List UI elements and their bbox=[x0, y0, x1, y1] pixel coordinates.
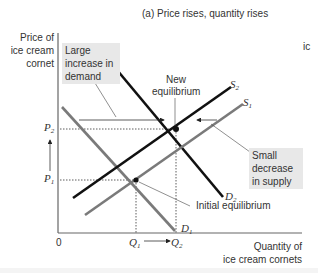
s2-label: S2 bbox=[230, 78, 239, 92]
new-equilibrium-point bbox=[173, 126, 179, 132]
chart-canvas bbox=[0, 0, 318, 273]
initial-eq-leader bbox=[139, 182, 190, 206]
q1-label: Q1 bbox=[129, 236, 140, 250]
bottom-band bbox=[0, 268, 318, 273]
cropped-text: ic bbox=[303, 41, 310, 52]
demand-curve-d1 bbox=[62, 107, 175, 231]
initial-equilibrium-point bbox=[133, 177, 138, 182]
label-line: equilibrium bbox=[152, 86, 200, 98]
supply-curve-s2 bbox=[73, 87, 231, 198]
label-line: New bbox=[152, 74, 200, 86]
supply-leader bbox=[211, 124, 250, 152]
new-equilibrium-label: New equilibrium bbox=[152, 74, 200, 98]
demand-leader bbox=[95, 83, 116, 117]
q2-label: Q2 bbox=[171, 236, 182, 250]
demand-shift-annotation: Large increase in demand bbox=[62, 43, 120, 84]
annotation-line: demand bbox=[65, 70, 117, 83]
supply-shift-annotation: Small decrease in supply bbox=[249, 148, 303, 189]
d1-label: D1 bbox=[181, 222, 192, 236]
s1-label: S1 bbox=[243, 96, 252, 110]
p1-label: P1 bbox=[44, 172, 54, 186]
annotation-line: Small bbox=[252, 149, 300, 162]
annotation-line: decrease bbox=[252, 162, 300, 175]
annotation-line: increase in bbox=[65, 57, 117, 70]
d2-label: D2 bbox=[225, 190, 236, 204]
annotation-line: Large bbox=[65, 44, 117, 57]
p2-label: P2 bbox=[44, 121, 54, 135]
origin-label: 0 bbox=[56, 237, 62, 248]
annotation-line: in supply bbox=[252, 175, 300, 188]
